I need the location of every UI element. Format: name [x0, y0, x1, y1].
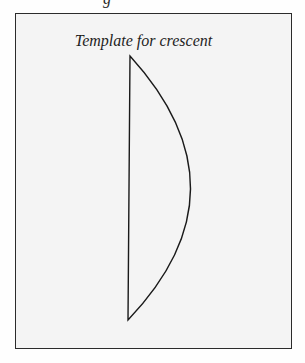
crescent-shape — [0, 0, 305, 363]
page: g Template for crescent — [0, 0, 305, 363]
crescent-outline — [128, 56, 191, 320]
